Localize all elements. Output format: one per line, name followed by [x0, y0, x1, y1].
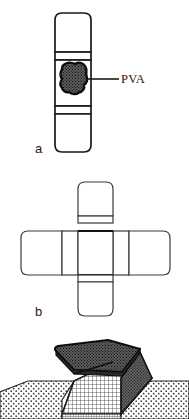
- panel-b-bottom-arm: [78, 282, 113, 316]
- panel-a-bottom-segment: [55, 114, 91, 152]
- panel-b-bottom-hinge: [78, 275, 113, 282]
- panel-b-center-square: [78, 231, 113, 275]
- panel-b-left-arm-outer: [21, 231, 62, 275]
- front-edge-band: [62, 414, 121, 419]
- panel-b-right-arm-outer: [129, 231, 170, 275]
- panel-b-letter: b: [35, 304, 42, 319]
- panel-a-lower-hinge-segment: [55, 106, 91, 114]
- panel-a-top-segment: [55, 13, 91, 52]
- scientific-figure: PVA a b: [0, 0, 189, 419]
- panel-b-top-arm: [78, 182, 113, 216]
- pva-callout-label: PVA: [121, 72, 145, 86]
- panel-b-top-hinge: [78, 216, 113, 223]
- panel-a-upper-hinge-segment: [55, 52, 91, 60]
- panel-b-left-hinge: [62, 231, 78, 275]
- pva-blob: [60, 63, 87, 94]
- panel-a-letter: a: [35, 141, 43, 156]
- panel-b-right-hinge: [113, 231, 129, 275]
- figure-root: PVA a b: [0, 0, 189, 419]
